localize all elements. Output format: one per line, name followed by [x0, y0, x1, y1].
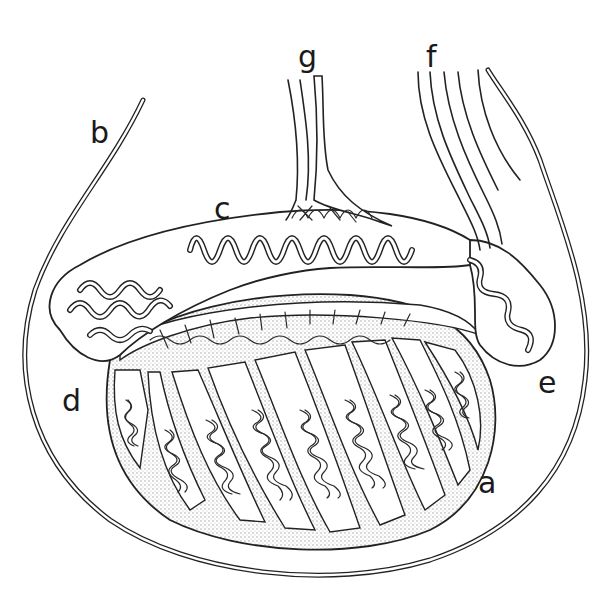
testis-diagram: [0, 0, 607, 603]
diagram-canvas: b c d e f g a: [0, 0, 607, 603]
label-g: g: [298, 42, 317, 72]
label-e: e: [538, 368, 556, 398]
label-a: a: [478, 468, 496, 498]
spermatic-vessels: [286, 76, 392, 226]
label-b: b: [90, 118, 109, 148]
label-c: c: [214, 194, 231, 224]
label-f: f: [426, 42, 437, 72]
label-d: d: [62, 386, 81, 416]
